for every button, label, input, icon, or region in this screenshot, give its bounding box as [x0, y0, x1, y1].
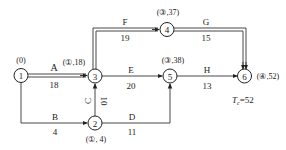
node-3-label: 3: [93, 72, 98, 82]
node-5-label: 5: [168, 72, 173, 82]
node-1-label: 1: [19, 71, 24, 81]
node-2-label: 2: [93, 119, 98, 129]
activity-d-arrow: [102, 84, 170, 123]
node-3-tag: (①,18): [63, 58, 86, 67]
activity-a-arrow: [28, 74, 87, 77]
activity-h-duration: 13: [203, 81, 213, 91]
activity-f-duration: 19: [121, 33, 131, 43]
activity-b-duration: 4: [53, 127, 58, 137]
activity-h-label: H: [204, 65, 211, 75]
activity-f-label: F: [122, 17, 127, 27]
activity-a-duration: 18: [50, 80, 60, 90]
node-2-tag: (①, 4): [86, 135, 107, 144]
node-6-label: 6: [242, 72, 247, 82]
activity-c-duration: 10: [99, 97, 109, 107]
activity-g-duration: 15: [202, 33, 212, 43]
activity-b-label: B: [52, 112, 58, 122]
node-4-label: 4: [165, 25, 170, 35]
node-6: 6: [238, 69, 252, 83]
node-1: 1: [14, 69, 28, 83]
node-3: 3: [88, 69, 102, 83]
activity-e-label: E: [128, 65, 134, 75]
total-time-label: Tc=52: [232, 95, 254, 106]
svg-text:Tc=52: Tc=52: [232, 95, 254, 106]
node-6-tag: (④,52): [257, 72, 280, 81]
node-1-tag: (0): [16, 56, 26, 65]
activity-d-duration: 11: [128, 127, 137, 137]
activity-d-label: D: [129, 112, 136, 122]
activity-g-label: G: [203, 17, 210, 27]
node-4: 4: [160, 23, 174, 37]
node-5-tag: (③,38): [162, 56, 185, 65]
node-2: 2: [88, 116, 102, 130]
activity-a-label: A: [50, 62, 58, 73]
activity-c-label: C: [83, 98, 93, 104]
total-time-value: =52: [240, 95, 254, 105]
activity-e-duration: 20: [127, 81, 137, 91]
node-4-tag: (③,37): [157, 8, 180, 17]
network-diagram: A 18 B 4 C 10 D 11 E 20 F 19 G 15 H 13: [0, 0, 286, 150]
node-5: 5: [163, 69, 177, 83]
